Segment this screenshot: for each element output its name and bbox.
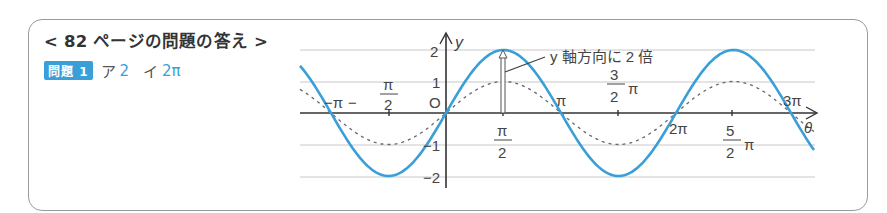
scale-annotation: y 軸方向に 2 倍 (550, 48, 653, 65)
svg-text:−: − (348, 94, 357, 111)
svg-text:π: π (556, 92, 566, 109)
svg-text:2: 2 (726, 144, 734, 161)
svg-text:π: π (497, 122, 507, 139)
svg-text:2: 2 (610, 88, 618, 105)
svg-text:−2: −2 (423, 169, 440, 186)
svg-text:3π: 3π (783, 92, 802, 109)
svg-text:5: 5 (726, 122, 734, 139)
svg-text:y: y (454, 34, 464, 51)
svg-text:2π: 2π (669, 120, 688, 137)
svg-text:2: 2 (498, 144, 506, 161)
svg-text:−1: −1 (423, 137, 440, 154)
svg-text:3: 3 (610, 66, 618, 83)
svg-text:π: π (744, 136, 754, 153)
svg-text:O: O (429, 94, 441, 111)
svg-text:1: 1 (432, 74, 440, 91)
sine-graph: y 軸方向に 2 倍 y 2 1 O −1 −2 −π − π 2 π 2 π … (0, 0, 887, 213)
svg-text:−π: −π (324, 94, 343, 111)
svg-text:2: 2 (384, 96, 392, 113)
svg-text:2: 2 (430, 43, 438, 60)
svg-text:π: π (628, 80, 638, 97)
svg-text:π: π (383, 76, 393, 93)
svg-text:θ: θ (804, 119, 812, 136)
